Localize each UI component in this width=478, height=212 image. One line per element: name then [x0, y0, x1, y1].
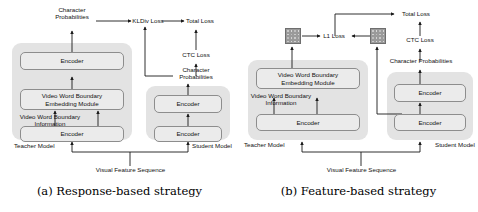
- teacher-encoder-bottom-a: Encoder: [20, 126, 124, 142]
- teacher-model-label-a: Teacher Model: [14, 142, 74, 149]
- ctc-loss-label-a: CTC Loss: [178, 51, 214, 58]
- student-model-label-b: Student Model: [435, 141, 478, 148]
- total-loss-label-a: Total Loss: [182, 17, 218, 24]
- total-loss-label-b: Total Loss: [397, 10, 435, 17]
- kldiv-loss-label-a: KLDiv Loss: [131, 17, 165, 24]
- student-encoder-top-a: Encoder: [154, 95, 222, 113]
- teacher-character-probabilities-a: Character Probabilities: [37, 6, 107, 21]
- visual-feature-sequence-label-b: Visual Feature Sequence: [314, 166, 409, 173]
- teacher-vwb-embedding-module-a: Video Word Boundary Embedding Module: [20, 89, 124, 110]
- teacher-vwb-information-b: Video Word Boundary Information: [241, 92, 321, 107]
- caption-panel-a: (a) Response-based strategy: [0, 184, 239, 198]
- student-encoder-bottom-b: Encoder: [394, 114, 466, 131]
- visual-feature-sequence-label-a: Visual Feature Sequence: [83, 166, 178, 173]
- teacher-encoder-top-a: Encoder: [20, 52, 124, 70]
- student-character-probabilities-a: Character Probabilities: [161, 66, 231, 81]
- student-feature-map-b: [370, 28, 386, 44]
- ctc-loss-label-b: CTC Loss: [402, 36, 438, 43]
- teacher-vwb-embedding-module-b: Video Word Boundary Embedding Module: [256, 68, 360, 89]
- teacher-feature-map-b: [285, 28, 301, 44]
- caption-panel-b: (b) Feature-based strategy: [239, 184, 478, 198]
- figure-knowledge-distillation-strategies: Encoder Video Word Boundary Embedding Mo…: [0, 0, 478, 212]
- l1-loss-label-b: L1 Loss: [318, 32, 350, 39]
- student-character-probabilities-b: Character Probabilities: [380, 57, 462, 64]
- teacher-vwb-information-a: Video Word Boundary Information: [9, 113, 91, 128]
- panel-feature-based-strategy: Video Word Boundary Embedding Module Enc…: [239, 0, 478, 212]
- student-encoder-top-b: Encoder: [394, 84, 466, 102]
- student-encoder-bottom-a: Encoder: [154, 126, 222, 142]
- teacher-model-label-b: Teacher Model: [244, 141, 306, 148]
- teacher-encoder-bottom-b: Encoder: [256, 114, 360, 131]
- panel-response-based-strategy: Encoder Video Word Boundary Embedding Mo…: [0, 0, 239, 212]
